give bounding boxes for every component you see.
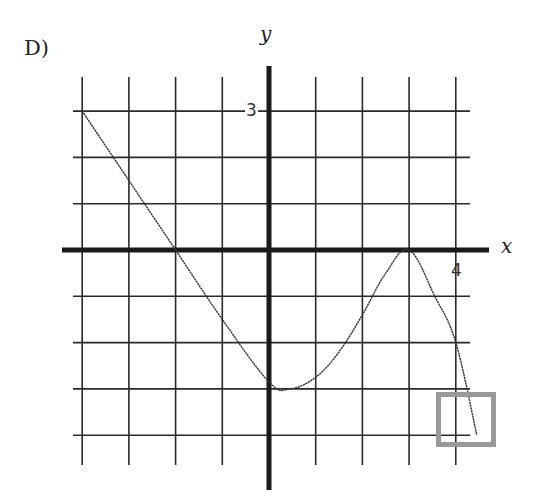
axes: [62, 66, 489, 490]
y-axis-label: y: [260, 24, 271, 44]
highlight-box: [439, 395, 494, 445]
answer-choice-label: D): [24, 38, 49, 59]
y-tick-label-3: 3: [245, 102, 258, 119]
coordinate-plane: [0, 0, 544, 504]
x-axis-label: x: [501, 236, 512, 256]
function-curve: [82, 111, 477, 435]
x-tick-label-4: 4: [450, 262, 463, 279]
graph-figure: D) y x 3 4: [0, 0, 544, 504]
